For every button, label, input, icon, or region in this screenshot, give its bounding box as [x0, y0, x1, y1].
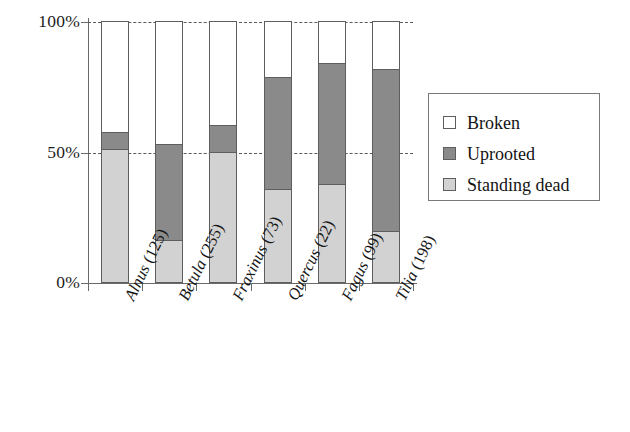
legend-swatch-icon [443, 178, 456, 191]
legend-label: Uprooted [467, 145, 535, 163]
legend-item: Standing dead [443, 169, 599, 200]
bar-segment-uprooted [264, 77, 292, 190]
gridline [88, 22, 413, 23]
y-axis-tick-label: 50% [18, 144, 80, 162]
y-axis-tick-label: 0% [18, 274, 80, 292]
legend-swatch-icon [443, 116, 456, 129]
legend-swatch-icon [443, 147, 456, 160]
bar [101, 22, 129, 283]
legend-item: Uprooted [443, 138, 599, 169]
gridline [88, 153, 413, 154]
bar-segment-uprooted [209, 125, 237, 152]
y-axis-tick-label: 100% [18, 13, 80, 31]
x-axis-tick-mark [88, 283, 89, 291]
bar-segment-broken [372, 21, 400, 70]
y-axis-tick-labels: 0%50%100% [18, 0, 80, 432]
legend-label: Standing dead [467, 176, 569, 194]
stacked-bar-chart: 0%50%100% Alnus (125)Betula (255)Fraxinu… [0, 0, 630, 432]
bar-segment-broken [155, 21, 183, 145]
bar-segment-standing-dead [101, 149, 129, 283]
bar-segment-broken [209, 21, 237, 126]
bar-segment-uprooted [318, 63, 346, 185]
bar-segment-broken [264, 21, 292, 78]
bar-segment-uprooted [101, 132, 129, 150]
bar-segment-broken [318, 21, 346, 64]
legend-label: Broken [467, 114, 520, 132]
legend-item: Broken [443, 107, 599, 138]
chart-legend: BrokenUprootedStanding dead [428, 93, 600, 201]
bar-segment-broken [101, 21, 129, 133]
